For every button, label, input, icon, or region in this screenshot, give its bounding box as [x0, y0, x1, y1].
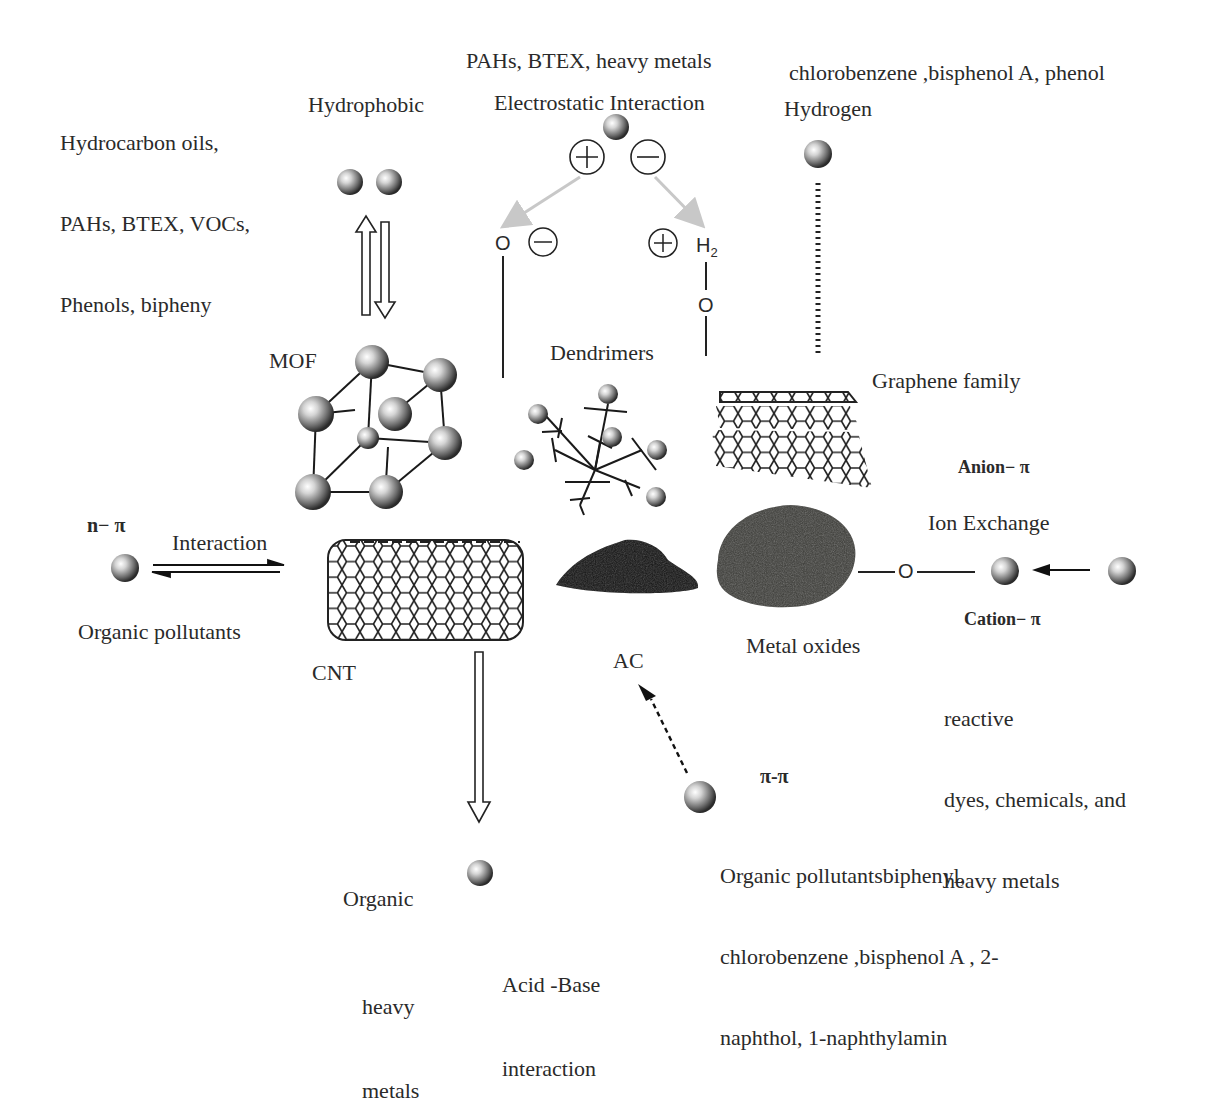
ion-exchange-pollutant-molecule — [1108, 557, 1136, 585]
electrostatic-arrow-left-icon — [510, 177, 580, 222]
dendrimer-structure-icon — [514, 384, 667, 515]
n-pi-equilibrium-arrows-icon — [152, 560, 284, 577]
ion-exchange-title: Ion Exchange — [928, 510, 1050, 536]
electrostatic-pollutant-molecule — [603, 114, 629, 140]
hydrophobic-pollutants-label: Hydrocarbon oils, PAHs, BTEX, VOCs, Phen… — [60, 75, 250, 345]
cnt-structure-icon — [328, 540, 523, 640]
water-oxygen-label: O — [698, 292, 714, 318]
hydrogen-title: Hydrogen — [784, 96, 872, 122]
acid-base-pollutant-metals-label: heavy metals — [362, 937, 419, 1102]
n-pi-interaction-label: Interaction — [172, 530, 267, 556]
hydrogen-pollutant-molecule — [804, 140, 832, 168]
negative-charge-icon — [631, 140, 665, 174]
activated-carbon-powder-image — [556, 540, 698, 594]
mof-structure-icon — [295, 345, 462, 510]
pi-pi-pollutant-molecule — [684, 781, 716, 813]
dendrimers-label: Dendrimers — [550, 340, 654, 366]
negative-charge-icon — [529, 228, 557, 256]
pi-pi-dashed-arrow-icon — [638, 684, 687, 773]
organic-pollutants-label: Organic pollutants — [78, 619, 241, 645]
organic-pollutant-molecule — [111, 554, 139, 582]
metal-oxides-label: Metal oxides — [746, 633, 860, 659]
hydrogen-pollutants-label: chlorobenzene ,bisphenol A, phenol — [789, 60, 1105, 86]
positive-charge-icon — [570, 140, 604, 174]
acid-base-title: Acid -Base interaction — [502, 915, 600, 1102]
ion-exchange-arrow-icon — [1032, 564, 1090, 576]
acid-base-arrow-icon — [468, 652, 490, 822]
pi-pi-pollutants-label: Organic pollutantsbiphenyl, chlorobenzen… — [720, 808, 999, 1078]
n-pi-title: n− π — [87, 512, 125, 538]
acid-base-pollutant-molecule — [467, 860, 493, 886]
cnt-label: CNT — [312, 660, 356, 686]
hydrophobic-pollutant-molecules — [337, 169, 402, 195]
cation-pi-title: Cation− π — [964, 606, 1041, 632]
acid-base-pollutant-organic-label: Organic — [343, 886, 413, 912]
pi-pi-title: π-π — [760, 763, 789, 789]
metal-oxide-powder-image — [717, 505, 856, 607]
hydrophobic-title: Hydrophobic — [308, 92, 424, 118]
ion-exchange-oxygen-label: O — [898, 558, 914, 584]
oxygen-atom-label: O — [495, 230, 511, 256]
mof-label: MOF — [269, 348, 317, 374]
electrostatic-title: Electrostatic Interaction — [494, 90, 705, 116]
electrostatic-pollutants-label: PAHs, BTEX, heavy metals — [466, 48, 711, 74]
cation-molecule — [991, 557, 1019, 585]
positive-charge-icon — [649, 229, 677, 257]
graphene-family-label: Graphene family — [872, 368, 1020, 394]
electrostatic-arrow-right-icon — [655, 177, 697, 220]
water-hydrogen-label: H2 — [696, 232, 718, 266]
hydrophobic-equilibrium-arrows-icon — [356, 216, 395, 318]
ac-label: AC — [613, 648, 644, 674]
anion-pi-title: Anion− π — [958, 454, 1030, 480]
graphene-sheets-icon — [712, 392, 872, 488]
